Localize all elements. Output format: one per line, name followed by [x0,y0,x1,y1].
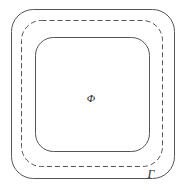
diagram-canvas: Φ Γ [0,0,186,190]
boundary-curve-label: Γ [147,167,156,181]
interior-region-label: Φ [87,92,96,104]
nested-domain-figure: Φ Γ [0,0,186,190]
